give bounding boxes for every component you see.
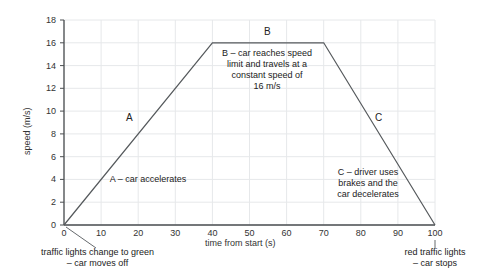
x-tick-0: 0: [51, 228, 77, 238]
annotation-b: B – car reaches speed limit and travels …: [210, 48, 324, 92]
x-tick-90: 90: [385, 228, 411, 238]
x-axis-title: time from start (s): [205, 238, 276, 248]
x-tick-80: 80: [348, 228, 374, 238]
y-tick-14: 14: [34, 61, 56, 71]
annotation-a-line1: A – car accelerates: [88, 174, 208, 185]
x-tick-60: 60: [274, 228, 300, 238]
callout-stop: red traffic lights – car stops: [368, 247, 480, 269]
y-tick-10: 10: [34, 106, 56, 116]
region-label-b: B: [264, 26, 271, 37]
x-tick-70: 70: [311, 228, 337, 238]
annotation-c-line2: brakes and the: [320, 178, 416, 189]
annotation-c: C – driver uses brakes and the car decel…: [320, 167, 416, 200]
annotation-a: A – car accelerates: [88, 174, 208, 185]
annotation-b-line4: 16 m/s: [210, 81, 324, 92]
x-tick-100: 100: [422, 228, 448, 238]
callout-start: traffic lights change to green – car mov…: [10, 247, 185, 269]
x-tick-30: 30: [162, 228, 188, 238]
x-tick-20: 20: [125, 228, 151, 238]
annotation-b-line1: B – car reaches speed: [210, 48, 324, 59]
y-tick-12: 12: [34, 83, 56, 93]
callout-stop-line1: red traffic lights: [368, 247, 480, 258]
region-label-a: A: [126, 112, 133, 123]
callout-stop-line2: – car stops: [368, 258, 480, 269]
annotation-c-line1: C – driver uses: [320, 167, 416, 178]
y-tick-6: 6: [34, 152, 56, 162]
x-tick-10: 10: [88, 228, 114, 238]
y-tick-4: 4: [34, 174, 56, 184]
annotation-b-line3: constant speed of: [210, 70, 324, 81]
y-tick-16: 16: [34, 38, 56, 48]
y-tick-18: 18: [34, 15, 56, 25]
y-tick-2: 2: [34, 197, 56, 207]
y-tick-8: 8: [34, 129, 56, 139]
callout-start-line2: – car moves off: [10, 258, 185, 269]
annotation-c-line3: car decelerates: [320, 189, 416, 200]
chart-figure: speed (m/s) time from start (s) 0 2 4 6 …: [0, 0, 480, 275]
x-tick-50: 50: [237, 228, 263, 238]
callout-start-line1: traffic lights change to green: [10, 247, 185, 258]
y-axis-title: speed (m/s): [22, 107, 32, 155]
x-tick-40: 40: [199, 228, 225, 238]
region-label-c: C: [375, 112, 382, 123]
annotation-b-line2: limit and travels at a: [210, 59, 324, 70]
